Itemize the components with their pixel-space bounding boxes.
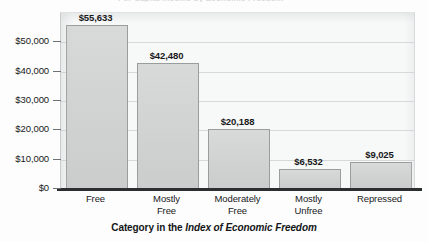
bar-value-label: $9,025 — [340, 149, 420, 160]
x-axis-title: Category in the Index of Economic Freedo… — [0, 222, 428, 233]
bar[interactable] — [350, 162, 412, 188]
y-axis-tick — [53, 188, 61, 189]
x-axis-category-label: Repressed — [335, 193, 425, 205]
y-axis-label: $50,000 — [15, 35, 49, 46]
bar[interactable] — [279, 169, 341, 188]
chart-screenshot: Per Capita Income by Economic Freedom $0… — [0, 0, 428, 242]
bar-value-label: $20,188 — [198, 116, 278, 127]
y-axis-label: $10,000 — [15, 153, 49, 164]
bar[interactable] — [137, 63, 199, 188]
y-axis-tick — [53, 129, 61, 130]
x-axis-category-line: Unfree — [264, 205, 354, 217]
y-axis-tick — [53, 159, 61, 160]
bar[interactable] — [208, 129, 270, 188]
x-axis-category-line: Repressed — [335, 193, 425, 205]
y-axis-tick — [53, 41, 61, 42]
y-axis-label: $0 — [39, 182, 49, 193]
bar[interactable] — [66, 25, 128, 188]
bar-value-label: $6,532 — [269, 156, 349, 167]
bar-value-label: $55,633 — [56, 12, 136, 23]
x-axis-title-prefix: Category in the — [111, 222, 185, 233]
bar-value-label: $42,480 — [127, 50, 207, 61]
y-axis-label: $40,000 — [15, 65, 49, 76]
axis-baseline — [57, 188, 422, 191]
y-axis-tick — [53, 100, 61, 101]
plot-area — [60, 12, 415, 188]
x-axis-title-italic: Index of Economic Freedom — [185, 222, 316, 233]
y-axis-label: $30,000 — [15, 94, 49, 105]
y-axis-tick — [53, 71, 61, 72]
y-axis-label: $20,000 — [15, 123, 49, 134]
cropped-chart-title: Per Capita Income by Economic Freedom — [118, 0, 318, 2]
